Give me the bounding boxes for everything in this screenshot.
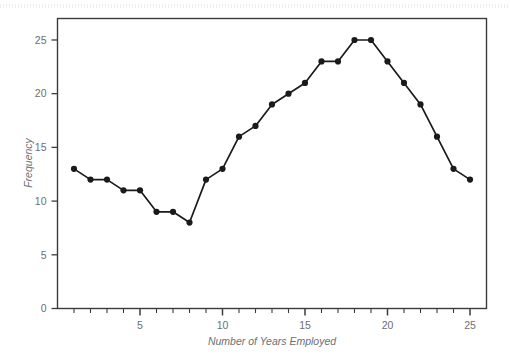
x-tick-label: 5 bbox=[137, 319, 143, 331]
y-tick-label: 20 bbox=[35, 87, 47, 99]
data-point bbox=[384, 58, 390, 64]
line-chart: 0510152025 510152025 Number of Years Emp… bbox=[0, 0, 510, 363]
y-tick-label: 15 bbox=[35, 141, 47, 153]
x-tick-label: 20 bbox=[382, 319, 394, 331]
x-tick-label: 10 bbox=[217, 319, 229, 331]
data-point bbox=[137, 187, 143, 193]
data-point bbox=[170, 209, 176, 215]
data-point bbox=[351, 37, 357, 43]
y-tick-label: 25 bbox=[35, 34, 47, 46]
data-point bbox=[401, 80, 407, 86]
data-point bbox=[417, 101, 423, 107]
y-axis-ticks bbox=[52, 40, 58, 309]
data-point bbox=[302, 80, 308, 86]
y-axis-title: Frequency bbox=[22, 137, 34, 187]
y-tick-label: 0 bbox=[41, 302, 47, 314]
data-point bbox=[269, 101, 275, 107]
data-point bbox=[450, 166, 456, 172]
data-point bbox=[236, 134, 242, 140]
x-axis-tick-labels: 510152025 bbox=[137, 319, 476, 331]
data-point bbox=[203, 177, 209, 183]
x-tick-label: 25 bbox=[464, 319, 476, 331]
data-point bbox=[120, 187, 126, 193]
data-point bbox=[368, 37, 374, 43]
data-point bbox=[252, 123, 258, 129]
data-point bbox=[71, 166, 77, 172]
data-point bbox=[153, 209, 159, 215]
chart-figure: 0510152025 510152025 Number of Years Emp… bbox=[0, 0, 510, 363]
data-point bbox=[186, 219, 192, 225]
data-point bbox=[335, 58, 341, 64]
data-point bbox=[434, 134, 440, 140]
plot-frame bbox=[58, 19, 487, 309]
y-tick-label: 5 bbox=[41, 249, 47, 261]
data-point bbox=[467, 177, 473, 183]
y-axis-tick-labels: 0510152025 bbox=[35, 34, 47, 315]
x-tick-label: 15 bbox=[299, 319, 311, 331]
data-point bbox=[104, 177, 110, 183]
data-point bbox=[285, 91, 291, 97]
x-axis-title: Number of Years Employed bbox=[208, 335, 337, 347]
data-point bbox=[219, 166, 225, 172]
y-tick-label: 10 bbox=[35, 195, 47, 207]
data-point bbox=[87, 177, 93, 183]
data-point bbox=[318, 58, 324, 64]
